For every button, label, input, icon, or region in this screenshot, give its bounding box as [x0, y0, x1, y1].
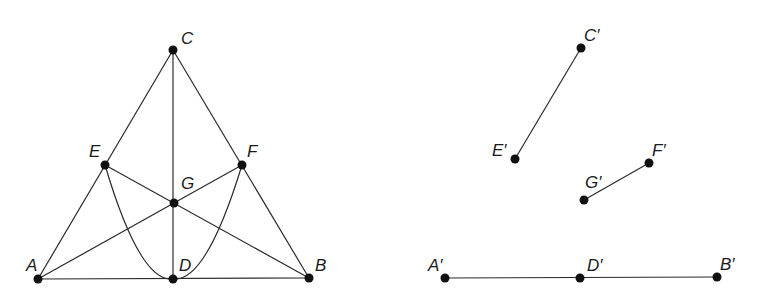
- label-b-prime: B′: [720, 255, 735, 274]
- right-figure: C′ E′ F′ G′ A′ D′ B′: [427, 26, 735, 283]
- label-f: F: [247, 142, 259, 161]
- label-b: B: [315, 256, 326, 275]
- label-d: D: [179, 256, 191, 275]
- point-c: [169, 46, 178, 55]
- point-d-prime: [576, 274, 585, 283]
- label-e-prime: E′: [492, 141, 507, 160]
- point-d: [169, 275, 178, 284]
- label-d-prime: D′: [587, 256, 603, 275]
- label-c-prime: C′: [584, 26, 600, 45]
- label-e: E: [89, 142, 101, 161]
- label-g: G: [181, 174, 194, 193]
- point-e: [101, 161, 110, 170]
- label-f-prime: F′: [652, 141, 666, 160]
- left-figure: C E F G A D B: [25, 29, 326, 284]
- segment-c-prime-e-prime: [515, 48, 581, 159]
- label-g-prime: G′: [585, 173, 602, 192]
- point-g-prime: [580, 196, 589, 205]
- point-g: [170, 199, 179, 208]
- point-e-prime: [511, 155, 520, 164]
- point-f: [238, 161, 247, 170]
- point-a: [34, 275, 43, 284]
- segment-eb: [105, 165, 309, 278]
- segment-fa: [38, 165, 242, 279]
- point-b: [305, 274, 314, 283]
- label-a: A: [25, 256, 37, 275]
- label-c: C: [181, 29, 194, 48]
- geometry-diagram: C E F G A D B C′ E′ F′ G′ A′ D′ B′: [0, 0, 759, 301]
- label-a-prime: A′: [427, 256, 443, 275]
